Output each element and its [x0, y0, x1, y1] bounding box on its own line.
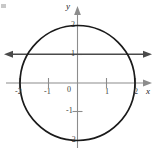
x-tick-label-pos1: 1	[105, 88, 109, 96]
graph-canvas	[0, 0, 156, 154]
x-tick-label-neg1: -1	[44, 88, 51, 96]
x-axis	[6, 80, 152, 87]
x-axis-label: x	[146, 87, 150, 96]
x-tick-label-neg2: -2	[15, 88, 22, 96]
origin-label: 0	[67, 86, 71, 94]
y-tick-label-pos1: 1	[71, 50, 75, 58]
coordinate-plane-figure: y x 0 -2 -1 1 2 2 1 -1 -2	[0, 0, 156, 154]
y-tick-label-neg1: -1	[66, 107, 73, 115]
y-tick-label-pos2: 2	[71, 21, 75, 29]
y-tick-label-neg2: -2	[69, 136, 76, 144]
x-tick-label-pos2: 2	[134, 88, 138, 96]
y-axis-label: y	[66, 2, 70, 11]
y-axis	[74, 6, 81, 148]
